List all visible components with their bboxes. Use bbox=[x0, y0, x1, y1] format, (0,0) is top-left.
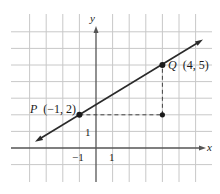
point-q-label: Q (4, 5) bbox=[168, 58, 209, 72]
x-tick-label-neg1: −1 bbox=[72, 151, 84, 163]
x-tick-label-1: 1 bbox=[109, 151, 115, 163]
point-q bbox=[159, 62, 165, 68]
point-q-coords: (4, 5) bbox=[183, 58, 209, 72]
point-p-label: P (−1, 2) bbox=[29, 102, 76, 116]
arrow-upper-right-icon bbox=[195, 40, 203, 46]
point-p-name: P bbox=[29, 102, 38, 116]
line-pq bbox=[35, 40, 203, 142]
point-corner bbox=[160, 112, 165, 117]
x-axis bbox=[11, 146, 206, 151]
point-p bbox=[76, 112, 82, 118]
point-q-name: Q bbox=[168, 58, 177, 72]
y-axis-label: y bbox=[89, 12, 95, 24]
point-p-coords: (−1, 2) bbox=[43, 102, 76, 116]
coordinate-plane-figure: y x −1 1 1 P (−1, 2) Q (4, 5) bbox=[0, 0, 220, 194]
y-tick-label-1: 1 bbox=[85, 126, 91, 138]
arrow-lower-left-icon bbox=[35, 136, 43, 142]
x-axis-label: x bbox=[206, 141, 212, 153]
